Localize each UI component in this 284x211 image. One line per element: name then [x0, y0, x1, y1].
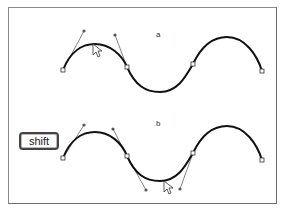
direction-point[interactable] — [82, 29, 85, 32]
anchor-point[interactable] — [260, 69, 264, 73]
shift-key-label: shift — [29, 135, 49, 147]
anchor-point[interactable] — [260, 158, 264, 162]
direction-point[interactable] — [178, 187, 181, 190]
direction-point[interactable] — [113, 33, 116, 36]
bezier-diagram — [0, 0, 284, 211]
arrow-cursor-icon — [164, 181, 173, 194]
anchor-point[interactable] — [191, 62, 195, 66]
direction-point[interactable] — [82, 123, 85, 126]
arrow-cursor-icon — [93, 44, 102, 57]
bezier-curve[interactable] — [63, 126, 262, 181]
direction-point[interactable] — [144, 188, 147, 191]
anchor-point[interactable] — [125, 65, 129, 69]
panel-label-a: a — [156, 30, 160, 39]
panel-a — [61, 29, 264, 92]
shift-key-icon: shift — [19, 132, 59, 150]
panel-b — [61, 123, 264, 194]
panel-label-b: b — [156, 119, 160, 128]
anchor-point[interactable] — [191, 151, 195, 155]
anchor-point[interactable] — [125, 154, 129, 158]
direction-point[interactable] — [111, 127, 114, 130]
anchor-point[interactable] — [61, 68, 65, 72]
anchor-point[interactable] — [61, 156, 65, 160]
